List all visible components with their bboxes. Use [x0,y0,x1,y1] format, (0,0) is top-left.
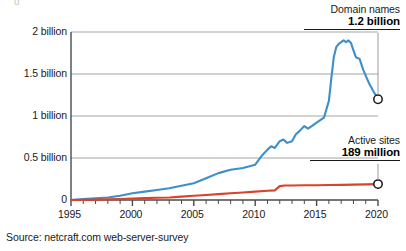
annotation-domain-names-rule [304,29,400,30]
annotation-domain-names-title: Domain names [304,3,400,15]
annotation-active-sites: Active sites 189 million [310,134,400,161]
series-domain-names-line [71,40,378,200]
annotation-domain-names-value: 1.2 billion [304,15,400,28]
annotation-active-sites-rule [310,160,400,161]
y-axis-tick-label: 0 [61,193,67,205]
y-axis-tick-label: 2 billion [32,25,67,37]
x-axis-tick-label: 2020 [365,208,406,220]
series-active-sites-line [71,184,378,200]
y-axis-tick-label: 1 billion [32,109,67,121]
chart-root: g 00.5 billion1 billion1.5 billion2 bill… [0,0,406,251]
y-axis-tick-label: 0.5 billion [24,151,67,163]
annotation-domain-names: Domain names 1.2 billion [304,3,400,30]
annotation-active-sites-title: Active sites [310,134,400,146]
y-axis-tick-label: 1.5 billion [24,67,67,79]
annotation-active-sites-value: 189 million [310,146,400,159]
source-caption: Source: netcraft.com web-server-survey [6,231,188,243]
x-axis-ticks [71,200,378,206]
